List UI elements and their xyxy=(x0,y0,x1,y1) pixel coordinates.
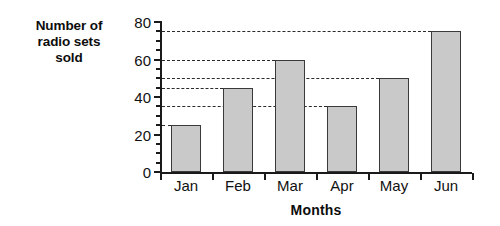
bar xyxy=(431,31,461,172)
x-axis-tick xyxy=(264,173,266,180)
x-axis-tick xyxy=(160,173,162,180)
guide-line xyxy=(162,125,171,126)
y-axis-title-line-1: Number of xyxy=(8,18,130,34)
bar-chart-figure: Number of radio sets sold 020406080 JanF… xyxy=(0,0,500,226)
bar xyxy=(327,106,357,172)
guide-line xyxy=(162,78,379,79)
y-axis-tick-label: 0 xyxy=(143,165,151,180)
guide-line xyxy=(162,31,431,32)
x-axis-tick xyxy=(368,173,370,180)
x-axis-tick-label: Apr xyxy=(330,178,353,193)
y-axis-tick-label: 60 xyxy=(134,52,151,67)
y-axis-minor-tick xyxy=(156,143,162,145)
y-axis-major-tick xyxy=(154,59,162,61)
y-axis-tick-label: 40 xyxy=(134,90,151,105)
y-axis-minor-tick xyxy=(156,49,162,51)
y-axis-tick-label: 80 xyxy=(134,15,151,30)
x-axis-tick-label: Mar xyxy=(277,178,303,193)
bar xyxy=(223,88,253,172)
y-axis-major-tick xyxy=(154,21,162,23)
x-axis-tick xyxy=(316,173,318,180)
y-axis-title: Number of radio sets sold xyxy=(8,18,130,66)
y-axis-minor-tick xyxy=(156,115,162,117)
x-axis-title: Months xyxy=(160,202,472,218)
guide-line xyxy=(162,60,275,61)
x-axis-tick xyxy=(472,173,474,180)
x-axis-tick-label: Jan xyxy=(174,178,198,193)
y-axis-major-tick xyxy=(154,134,162,136)
y-axis-title-line-2: radio sets xyxy=(8,34,130,50)
bar xyxy=(171,125,201,172)
x-axis-tick xyxy=(420,173,422,180)
bar xyxy=(275,60,305,173)
y-axis-title-line-3: sold xyxy=(8,50,130,66)
x-axis-tick-label: May xyxy=(380,178,408,193)
y-axis-tick-label: 20 xyxy=(134,127,151,142)
plot-area: 020406080 xyxy=(160,22,472,172)
y-axis-major-tick xyxy=(154,96,162,98)
y-axis-minor-tick xyxy=(156,152,162,154)
y-axis-minor-tick xyxy=(156,68,162,70)
x-axis-tick-label: Jun xyxy=(434,178,458,193)
y-axis-minor-tick xyxy=(156,40,162,42)
bar xyxy=(379,78,409,172)
x-axis-tick-label: Feb xyxy=(225,178,251,193)
guide-line xyxy=(162,88,223,89)
x-axis-tick xyxy=(212,173,214,180)
y-axis-minor-tick xyxy=(156,162,162,164)
